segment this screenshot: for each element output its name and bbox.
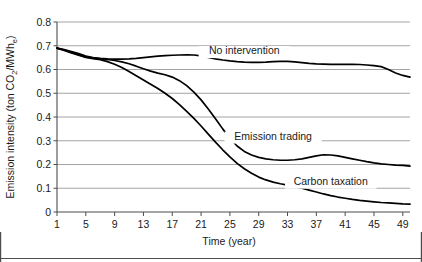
x-tick-label-5: 5 [83,218,89,230]
y-tick-label-0: 0 [45,206,51,218]
emission-intensity-line-chart: 15913172125293337414549 00.10.20.30.40.5… [0,0,422,262]
y-tick-label-0.4: 0.4 [36,111,51,123]
x-tick-label-49: 49 [397,218,409,230]
y-tick-label-0.5: 0.5 [36,87,51,99]
series-label-carbon-taxation: Carbon taxation [294,175,368,187]
x-tick-label-25: 25 [224,218,236,230]
x-tick-label-13: 13 [138,218,150,230]
x-tick-label-17: 17 [166,218,178,230]
chart-background [0,0,422,262]
y-axis-tick-labels: 00.10.20.30.40.50.60.70.8 [36,16,51,218]
y-tick-label-0.3: 0.3 [36,135,51,147]
y-tick-label-0.6: 0.6 [36,63,51,75]
chart-figure: 15913172125293337414549 00.10.20.30.40.5… [0,0,422,262]
y-axis-title-middle: /MWh [4,43,16,71]
x-tick-label-29: 29 [253,218,265,230]
y-axis-title-suffix: ) [4,36,16,40]
x-tick-label-41: 41 [339,218,351,230]
y-tick-label-0.8: 0.8 [36,16,51,28]
series-label-emission-trading: Emission trading [234,130,312,142]
x-tick-label-45: 45 [368,218,380,230]
y-tick-label-0.1: 0.1 [36,182,51,194]
x-tick-label-1: 1 [54,218,60,230]
x-tick-label-37: 37 [311,218,323,230]
series-label-no-intervention: No intervention [209,44,280,56]
x-tick-label-9: 9 [112,218,118,230]
x-tick-label-21: 21 [195,218,207,230]
x-tick-label-33: 33 [282,218,294,230]
x-axis-title: Time (year) [202,235,255,247]
y-tick-label-0.7: 0.7 [36,40,51,52]
y-axis-title-prefix: Emission intensity (ton CO [4,75,16,199]
y-tick-label-0.2: 0.2 [36,158,51,170]
